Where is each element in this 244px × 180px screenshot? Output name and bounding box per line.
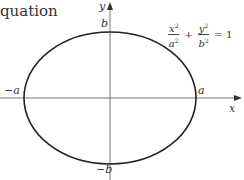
x-axis-label: x [229,102,235,115]
plus-sign: + [184,29,192,40]
y-axis-label: y [99,0,105,13]
ellipse-equation: x2 a2 + y2 b2 = 1 [166,20,235,50]
exponent: 2 [175,37,179,44]
fraction-y-over-b: y2 b2 [198,20,209,50]
equals-one: = 1 [214,29,232,40]
y-axis-arrow-icon [107,2,113,10]
exponent: 2 [205,22,209,29]
vertex-left-label: −a [4,84,20,97]
exponent: 2 [205,37,209,44]
vertex-right-label: a [198,84,205,97]
x-axis-arrow-icon [234,95,242,101]
fraction-x-over-a: x2 a2 [168,20,179,50]
vertex-top-label: b [101,17,108,30]
vertex-bottom-label: −b [96,163,112,176]
exponent: 2 [175,22,179,29]
